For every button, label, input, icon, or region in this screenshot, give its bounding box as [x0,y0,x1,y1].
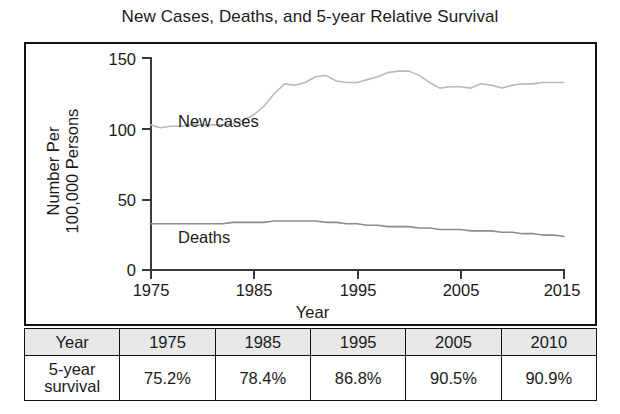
table-cell-survival-1975: 75.2% [120,356,215,401]
table-cell-survival-2010: 90.9% [501,356,596,401]
table-header-cell-1985: 1985 [215,329,310,356]
row-header-line-2: survival [25,378,119,395]
figure-title: New Cases, Deaths, and 5-year Relative S… [0,7,620,27]
table-header-cell-2005: 2005 [406,329,501,356]
chart-plot-frame: Number Per 100,000 Persons 150 100 50 0 … [24,42,597,326]
table-header-row: Year 1975 1985 1995 2005 2010 [25,329,597,356]
figure-root: New Cases, Deaths, and 5-year Relative S… [0,0,620,414]
table-row: 5-year survival 75.2% 78.4% 86.8% 90.5% … [25,356,597,401]
row-header-line-1: 5-year [25,361,119,378]
survival-data-table: Year 1975 1985 1995 2005 2010 5-year sur… [24,328,597,401]
table-header-cell-2010: 2010 [501,329,596,356]
table-row-header-survival: 5-year survival [25,356,120,401]
series-label-new-cases: New cases [178,112,259,131]
table-cell-survival-1985: 78.4% [215,356,310,401]
series-label-deaths: Deaths [178,228,230,247]
table-header-cell-1995: 1995 [310,329,405,356]
table-header-cell-year: Year [25,329,120,356]
table-header-cell-1975: 1975 [120,329,215,356]
table-cell-survival-1995: 86.8% [310,356,405,401]
table-cell-survival-2005: 90.5% [406,356,501,401]
series-lines-svg [26,44,599,328]
